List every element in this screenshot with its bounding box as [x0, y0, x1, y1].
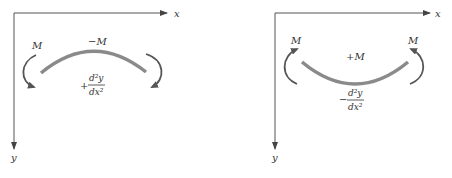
y-axis-label: y — [271, 152, 278, 163]
right-moment-arrow-icon — [146, 54, 162, 87]
curvature-denominator: dx² — [89, 87, 104, 97]
left-moment-arrow-icon — [23, 55, 36, 87]
curvature-numerator: d²y — [348, 88, 363, 98]
beam-sagging — [302, 62, 408, 84]
moment-curvature-diagram: x y −M M + d²y dx² x y +M M M − d²y dx² — [0, 0, 452, 178]
curvature-sign: − — [339, 94, 347, 105]
left-panel: x y −M M + d²y dx² — [10, 8, 180, 163]
beam-hogging — [41, 51, 146, 73]
beam-moment-label: +M — [346, 51, 365, 62]
curvature-sign: + — [80, 80, 88, 91]
left-end-moment-label: M — [31, 40, 43, 51]
right-moment-arrow-icon — [410, 49, 423, 84]
beam-moment-label: −M — [88, 36, 107, 47]
right-panel: x y +M M M − d²y dx² — [271, 8, 441, 163]
curvature-numerator: d²y — [89, 73, 104, 83]
left-end-moment-label: M — [290, 35, 302, 46]
curvature-denominator: dx² — [348, 102, 363, 112]
y-axis-label: y — [10, 152, 17, 163]
x-axis-label: x — [435, 8, 441, 19]
left-moment-arrow-icon — [285, 49, 297, 84]
right-end-moment-label: M — [407, 35, 419, 46]
x-axis-label: x — [174, 8, 180, 19]
